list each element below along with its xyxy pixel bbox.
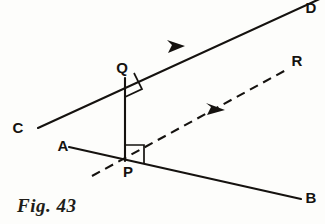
arrowhead-cd <box>167 40 185 53</box>
geometry-diagram: C A B D R Q P Fig. 43 <box>0 0 325 224</box>
point-label-q: Q <box>116 59 128 76</box>
point-label-r: R <box>292 52 303 69</box>
figure-caption: Fig. 43 <box>16 195 76 216</box>
figure-container: C A B D R Q P Fig. 43 <box>0 0 325 224</box>
point-label-a: A <box>58 137 69 154</box>
line-ab <box>69 147 301 199</box>
point-label-d: D <box>306 0 317 16</box>
point-label-p: P <box>123 163 133 180</box>
ray-pr <box>92 70 286 176</box>
line-cd <box>38 0 324 128</box>
point-label-c: C <box>13 119 24 136</box>
arrowhead-pr <box>206 103 225 115</box>
point-label-b: B <box>306 189 317 206</box>
